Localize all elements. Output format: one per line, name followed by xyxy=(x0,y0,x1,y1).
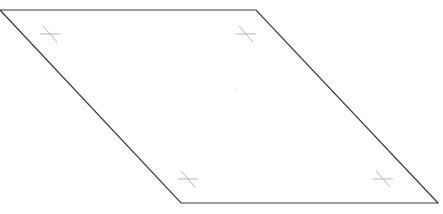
top-left-marker-icon xyxy=(40,26,60,42)
parallelogram-shape xyxy=(0,10,438,203)
bottom-left-marker-icon xyxy=(178,171,198,187)
center-point xyxy=(235,88,237,90)
corner-markers xyxy=(40,26,393,187)
bottom-right-marker-icon xyxy=(373,171,393,187)
parallelogram-diagram xyxy=(0,0,443,214)
top-right-marker-icon xyxy=(236,26,256,42)
